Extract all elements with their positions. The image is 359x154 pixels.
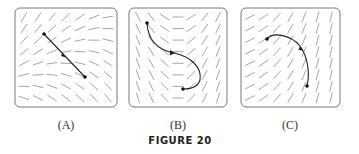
panel-c [241,8,340,107]
arrow-icon-b [170,50,175,56]
figure-caption: FIGURE 20 [148,135,211,146]
end-point-b [181,87,185,91]
slope-field-c [245,12,332,104]
end-point-a [83,75,87,79]
start-point-c [265,37,269,41]
start-point-a [42,32,46,36]
panel-c-label: (C) [282,118,298,133]
slope-field-b [136,12,221,103]
panel-b-label: (B) [170,118,186,133]
solution-curve-b [147,23,200,89]
panel-b [129,8,227,107]
panel-b-frame [129,8,227,107]
start-point-b [145,21,149,25]
panel-a-label: (A) [58,118,75,133]
panel-a [15,8,117,107]
panel-c-frame [241,8,340,107]
end-point-c [305,84,309,88]
